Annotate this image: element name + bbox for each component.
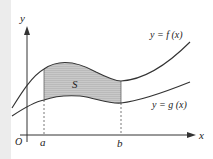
origin-label: O xyxy=(15,136,22,147)
y-axis-arrow-icon xyxy=(24,26,30,35)
diagram-canvas: y x O a b S y = f (x) y = g (x) xyxy=(0,0,213,159)
tick-label-b: b xyxy=(117,137,123,149)
x-axis-label: x xyxy=(198,129,204,141)
region-label-s: S xyxy=(72,78,78,90)
tick-label-a: a xyxy=(40,136,46,148)
curve-f-label: y = f (x) xyxy=(149,29,183,41)
y-axis-label: y xyxy=(19,12,25,24)
x-axis-arrow-icon xyxy=(187,132,196,138)
curve-g-label: y = g (x) xyxy=(151,99,187,111)
